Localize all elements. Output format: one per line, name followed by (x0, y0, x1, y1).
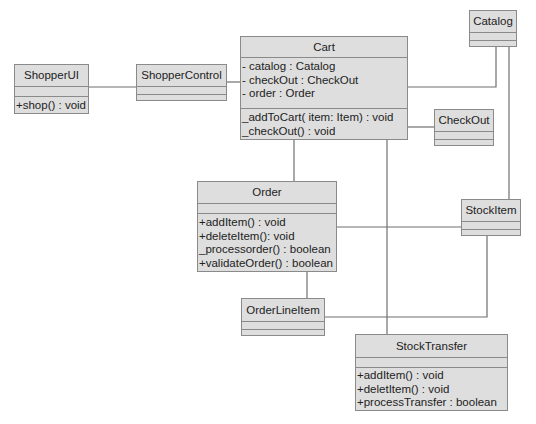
class-checkout: CheckOut (434, 109, 494, 146)
class-catalog: Catalog (469, 10, 517, 47)
attributes-compartment: - catalog : Catalog - checkOut : CheckOu… (241, 58, 407, 109)
methods-compartment (242, 330, 324, 335)
assoc-orderlineitem-stockitem (325, 236, 487, 317)
attributes-compartment (137, 87, 226, 95)
method: +addItem() : void (199, 216, 335, 230)
attribute: - catalog : Catalog (242, 60, 406, 74)
class-cart: Cart - catalog : Catalog - checkOut : Ch… (240, 36, 408, 140)
class-name: Catalog (470, 11, 516, 33)
attributes-compartment (15, 87, 88, 97)
attributes-compartment (356, 358, 507, 368)
class-stockitem: StockItem (461, 199, 521, 236)
methods-compartment (462, 230, 520, 235)
method: +deleteItem(): void (199, 230, 335, 244)
class-shoppercontrol: ShopperControl (136, 64, 227, 101)
class-name: StockItem (462, 200, 520, 222)
method: +addItem() : void (357, 369, 506, 383)
attribute: - checkOut : CheckOut (242, 74, 406, 88)
methods-compartment: _addToCart( item: Item) : void _checkOut… (241, 109, 407, 139)
methods-compartment: +addItem() : void +deleteItem(): void _p… (198, 214, 336, 271)
method: +shop() : void (16, 99, 87, 113)
class-name: CheckOut (435, 110, 493, 132)
uml-class-diagram: ShopperUI +shop() : void ShopperControl … (0, 0, 536, 424)
class-orderlineitem: OrderLineItem (241, 298, 325, 336)
class-stocktransfer: StockTransfer +addItem() : void +deletIt… (355, 334, 508, 411)
method: _addToCart( item: Item) : void (242, 111, 406, 125)
attributes-compartment (435, 132, 493, 140)
class-name: ShopperUI (15, 65, 88, 87)
attribute: - order : Order (242, 87, 406, 101)
attributes-compartment (198, 204, 336, 214)
methods-compartment: +shop() : void (15, 97, 88, 114)
method: +processTransfer : boolean (357, 396, 506, 410)
class-shopperui: ShopperUI +shop() : void (14, 64, 89, 114)
methods-compartment (470, 41, 516, 46)
class-name: ShopperControl (137, 65, 226, 87)
attributes-compartment (470, 33, 516, 41)
method: +deletItem() : void (357, 383, 506, 397)
methods-compartment (435, 140, 493, 145)
attributes-compartment (242, 322, 324, 330)
method: +validateOrder() : boolean (199, 257, 335, 271)
class-name: StockTransfer (356, 335, 507, 358)
method: _processorder() : boolean (199, 243, 335, 257)
assoc-cart-catalog (408, 47, 496, 87)
class-name: OrderLineItem (242, 299, 324, 322)
method: _checkOut() : void (242, 125, 406, 139)
methods-compartment (137, 95, 226, 100)
methods-compartment: +addItem() : void +deletItem() : void +p… (356, 368, 507, 411)
class-name: Order (198, 182, 336, 204)
class-order: Order +addItem() : void +deleteItem(): v… (197, 181, 337, 272)
attributes-compartment (462, 222, 520, 230)
class-name: Cart (241, 37, 407, 58)
